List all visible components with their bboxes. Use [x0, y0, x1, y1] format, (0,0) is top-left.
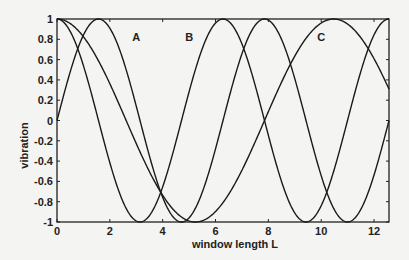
y-tick-label: -0.4: [34, 155, 54, 167]
y-tick-label: 0: [47, 115, 53, 127]
y-tick-label: -1: [43, 216, 53, 228]
y-tick-label: -0.8: [34, 196, 53, 208]
annotation-a: A: [132, 31, 140, 43]
y-tick-label: 1: [47, 13, 53, 25]
y-tick-label: -0.2: [34, 135, 53, 147]
x-axis-label: window length L: [191, 238, 278, 250]
x-tick-label: 12: [368, 225, 380, 237]
x-tick-label: 4: [160, 225, 167, 237]
y-tick-label: 0.8: [38, 33, 53, 45]
x-tick-label: 6: [212, 225, 218, 237]
curve-sinl: [57, 19, 389, 222]
y-tick-label: 0.4: [38, 74, 54, 86]
annotation-c: C: [317, 31, 325, 43]
y-tick-label: 0.6: [38, 54, 53, 66]
chart: 10.80.60.40.20-0.2-0.4-0.6-0.8-102468101…: [0, 0, 409, 260]
annotation-b: B: [185, 31, 193, 43]
x-tick-label: 8: [265, 225, 271, 237]
x-tick-label: 0: [54, 225, 60, 237]
y-tick-label: -0.6: [34, 175, 53, 187]
x-tick-label: 2: [107, 225, 113, 237]
x-tick-label: 10: [315, 225, 327, 237]
y-axis-label: vibration: [18, 122, 30, 169]
y-tick-label: 0.2: [38, 94, 53, 106]
